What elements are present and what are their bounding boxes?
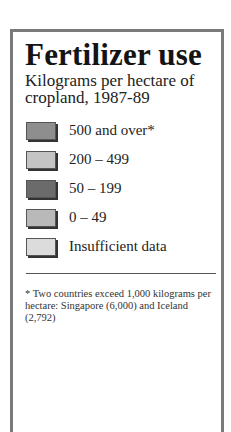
legend-item-insufficient-data: Insufficient data (26, 237, 216, 266)
legend-label: 50 – 199 (69, 179, 122, 197)
legend-label: 200 – 499 (69, 150, 129, 168)
legend-swatch (26, 122, 56, 140)
legend-subtitle: Kilograms per hectare of cropland, 1987-… (25, 72, 220, 106)
legend-swatch (26, 209, 56, 227)
legend-title: Fertilizer use (25, 38, 202, 72)
legend-item-0-49: 0 – 49 (26, 208, 216, 237)
legend-item-500-and-over: 500 and over* (26, 121, 216, 150)
legend-label: 0 – 49 (69, 208, 107, 226)
legend-item-50-199: 50 – 199 (26, 179, 216, 208)
legend-swatch (26, 180, 56, 198)
legend-label: Insufficient data (69, 237, 167, 255)
legend-swatch (26, 151, 56, 169)
legend-label: 500 and over* (69, 121, 155, 139)
legend-item-200-499: 200 – 499 (26, 150, 216, 179)
divider (26, 273, 216, 274)
footnote: * Two countries exceed 1,000 kilograms p… (25, 288, 217, 324)
legend-swatch (26, 238, 56, 256)
legend-list: 500 and over* 200 – 499 50 – 199 0 – 49 … (26, 121, 216, 266)
